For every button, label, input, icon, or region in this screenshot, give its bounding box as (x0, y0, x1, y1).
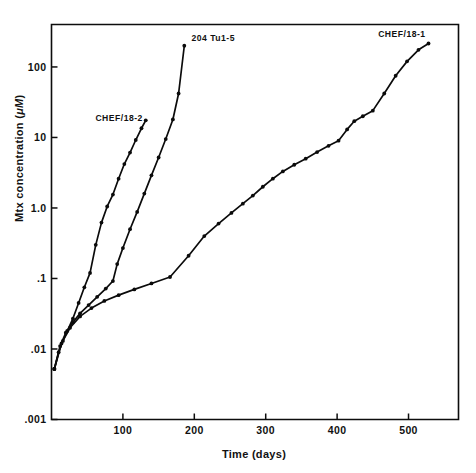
data-point (52, 367, 56, 371)
axis-tick-labels: 100101.0.1.01.001100200300400500 (24, 61, 417, 436)
data-point (68, 326, 72, 330)
x-tick-label-2: 300 (256, 424, 275, 436)
y-tick-label-3: .1 (37, 272, 47, 284)
data-point (251, 194, 255, 198)
data-point (202, 234, 206, 238)
x-axis-title: Time (days) (222, 448, 286, 460)
x-tick-label-0: 100 (114, 424, 133, 436)
data-point (88, 271, 92, 275)
series-labels: CHEF/18-2204 Tu1-5CHEF/18-1 (95, 29, 425, 124)
data-point (82, 285, 86, 289)
data-point (171, 118, 175, 122)
data-point (128, 227, 132, 231)
series-curve-204-tu1-5 (54, 46, 184, 369)
data-point (327, 144, 331, 148)
data-point (405, 59, 409, 63)
data-point (315, 150, 319, 154)
y-tick-label-2: 1.0 (31, 202, 47, 214)
series-label-chef-18-2: CHEF/18-2 (95, 113, 142, 123)
data-point (104, 287, 108, 291)
data-point (164, 137, 168, 141)
data-point (105, 205, 109, 209)
data-point (117, 177, 121, 181)
data-point (168, 275, 172, 279)
x-tick-label-4: 500 (399, 424, 418, 436)
data-point (100, 221, 104, 225)
data-point (177, 92, 181, 96)
data-point (281, 170, 285, 174)
data-point (187, 254, 191, 258)
mtx-concentration-vs-time-chart: 100101.0.1.01.001100200300400500 CHEF/18… (0, 0, 476, 473)
x-tick-label-3: 400 (328, 424, 347, 436)
data-point (241, 202, 245, 206)
plot-frame (52, 25, 459, 420)
data-series-curves (54, 44, 428, 370)
data-point (304, 157, 308, 161)
data-point (132, 288, 136, 292)
data-point (128, 151, 132, 155)
y-tick-label-0: 100 (28, 61, 47, 73)
data-point (427, 42, 431, 46)
data-point (150, 282, 154, 286)
data-point (77, 301, 81, 305)
series-curve-chef-18-1 (54, 44, 428, 370)
x-tick-label-1: 200 (185, 424, 204, 436)
data-point (111, 279, 115, 283)
data-point (157, 156, 161, 160)
y-tick-label-5: .001 (24, 413, 46, 425)
y-tick-label-4: .01 (31, 343, 47, 355)
y-axis-title: Mtx concentration (μM) (13, 94, 25, 222)
data-point (57, 350, 61, 354)
data-point (217, 222, 221, 226)
data-point (122, 162, 126, 166)
data-point (102, 299, 106, 303)
data-point (382, 92, 386, 96)
data-point (140, 126, 144, 130)
data-point (230, 211, 234, 215)
data-point (352, 119, 356, 123)
data-point (261, 185, 265, 189)
series-label-204-tu1-5: 204 Tu1-5 (191, 33, 235, 43)
data-point (134, 138, 138, 142)
data-point (94, 243, 98, 247)
data-point (117, 293, 121, 297)
series-label-chef-18-1: CHEF/18-1 (378, 29, 425, 39)
data-point (144, 118, 148, 122)
data-point (111, 193, 115, 197)
data-point-markers (52, 42, 430, 371)
data-point (345, 128, 349, 132)
data-point (78, 314, 82, 318)
data-point (60, 342, 64, 346)
data-point (64, 331, 68, 335)
data-point (361, 114, 365, 118)
figure-canvas: 100101.0.1.01.001100200300400500 CHEF/18… (0, 0, 476, 473)
data-point (71, 317, 75, 321)
data-point (95, 295, 99, 299)
y-tick-label-1: 10 (34, 131, 46, 143)
data-point (71, 320, 75, 324)
data-point (135, 210, 139, 214)
data-point (115, 262, 119, 266)
data-point (417, 48, 421, 52)
data-point (150, 173, 154, 177)
data-point (337, 139, 341, 143)
data-point (292, 163, 296, 167)
data-point (90, 306, 94, 310)
data-point (87, 303, 91, 307)
data-point (271, 177, 275, 181)
data-point (142, 192, 146, 196)
data-point (182, 44, 186, 48)
plot-frame-box (52, 25, 459, 420)
data-point (371, 109, 375, 113)
data-point (121, 246, 125, 250)
data-point (394, 74, 398, 78)
